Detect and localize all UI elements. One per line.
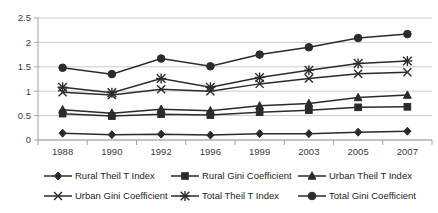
- data-point-star: [58, 82, 68, 92]
- line-chart: 00.511.522.51988199019921996199920032005…: [0, 0, 438, 213]
- y-axis-tick-label: 1: [26, 86, 31, 97]
- data-point-square: [182, 173, 189, 180]
- legend-label: Urban Gini Coefficient: [75, 190, 168, 201]
- data-point-circle: [157, 55, 165, 63]
- y-axis-tick-label: 2.5: [18, 12, 31, 23]
- chart-container: 00.511.522.51988199019921996199920032005…: [0, 0, 438, 213]
- data-point-star: [107, 88, 117, 98]
- data-point-diamond: [54, 172, 61, 180]
- data-point-square: [355, 104, 362, 111]
- x-axis-tick-label: 1996: [200, 146, 221, 157]
- x-axis-tick-label: 1990: [101, 146, 122, 157]
- x-axis-tick-label: 1999: [249, 146, 270, 157]
- data-point-square: [306, 107, 313, 114]
- legend-label: Total Theil T Index: [202, 190, 279, 201]
- legend-label: Rural Gini Coefficient: [202, 170, 292, 181]
- data-point-diamond: [158, 130, 165, 138]
- legend-label: Total Gini Coefficient: [329, 190, 416, 201]
- data-point-star: [205, 82, 215, 92]
- x-axis-tick-label: 2003: [298, 146, 319, 157]
- data-point-star: [304, 65, 314, 75]
- data-point-star: [402, 56, 412, 66]
- data-point-star: [353, 58, 363, 68]
- y-axis-tick-label: 2: [26, 37, 31, 48]
- x-axis-tick-label: 1988: [52, 146, 73, 157]
- data-point-circle: [256, 51, 264, 59]
- data-point-star: [255, 73, 265, 83]
- data-point-square: [404, 104, 411, 111]
- data-point-circle: [207, 63, 215, 71]
- legend-label: Rural Theil T Index: [75, 170, 155, 181]
- data-point-diamond: [355, 128, 362, 136]
- y-axis-tick-label: 1.5: [18, 61, 31, 72]
- data-point-diamond: [404, 127, 411, 135]
- x-axis-tick-label: 2005: [348, 146, 369, 157]
- data-point-diamond: [207, 131, 214, 139]
- data-point-diamond: [305, 130, 312, 138]
- data-point-circle: [308, 192, 316, 200]
- data-point-star: [156, 74, 166, 84]
- data-point-star: [180, 191, 190, 201]
- data-point-diamond: [256, 130, 263, 138]
- y-axis-tick-label: 0.5: [18, 110, 31, 121]
- data-point-square: [256, 109, 263, 116]
- x-axis-tick-label: 1992: [151, 146, 172, 157]
- data-point-circle: [404, 30, 412, 38]
- data-point-diamond: [108, 131, 115, 139]
- legend-label: Urban Theil T Index: [329, 170, 412, 181]
- data-point-circle: [305, 43, 313, 51]
- y-axis-tick-label: 0: [26, 134, 31, 145]
- data-point-circle: [354, 34, 362, 42]
- data-point-circle: [59, 64, 67, 72]
- x-axis-tick-label: 2007: [397, 146, 418, 157]
- data-point-diamond: [59, 129, 66, 137]
- data-point-circle: [108, 70, 116, 78]
